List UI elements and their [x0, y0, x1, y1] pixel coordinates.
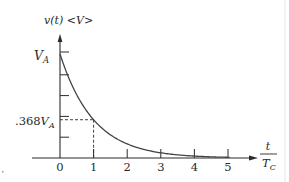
decay-curve — [60, 54, 230, 157]
y-axis-arrow-icon — [58, 34, 63, 42]
x-tick-label: 5 — [224, 160, 231, 174]
exponential-decay-chart: v(t) <V> 012345 VA .368VA t TC — [0, 0, 289, 182]
x-tick-label: 3 — [157, 160, 164, 174]
y-ticks — [60, 52, 69, 137]
x-tick-labels: 012345 — [56, 160, 231, 174]
x-axis-title-numerator: t — [266, 140, 271, 153]
x-tick-label: 2 — [124, 160, 131, 174]
x-axis-arrow-icon — [249, 156, 258, 161]
dashed-guides — [60, 120, 94, 158]
va-label: VA — [34, 48, 49, 65]
k368-label: .368VA — [15, 114, 55, 130]
x-tick-label: 4 — [191, 160, 198, 174]
y-axis-title: v(t) <V> — [44, 14, 93, 27]
x-axis-title: t TC — [260, 140, 277, 172]
scan-speck — [2, 171, 4, 173]
x-tick-label: 0 — [56, 160, 63, 174]
x-axis-title-denominator: TC — [262, 156, 276, 172]
x-tick-label: 1 — [90, 160, 97, 174]
